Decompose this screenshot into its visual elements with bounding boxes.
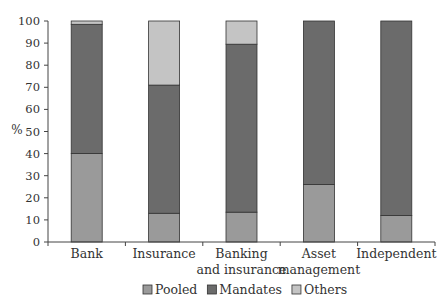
legend: PooledMandatesOthers: [143, 282, 347, 297]
bar-banking-and-insurance: [226, 21, 257, 242]
bar-segment-pooled: [149, 213, 180, 242]
y-axis: 0102030405060708090100%: [11, 14, 48, 249]
legend-swatch: [292, 285, 301, 294]
legend-swatch: [207, 285, 216, 294]
y-tick-label: 60: [25, 102, 40, 116]
bar-segment-pooled: [381, 215, 412, 242]
x-axis: BankInsuranceBankingand insuranceAssetma…: [48, 242, 436, 277]
y-tick-label: 40: [25, 147, 40, 161]
bar-bank: [71, 21, 102, 242]
x-tick-label: Independent: [356, 246, 436, 261]
legend-item-pooled: Pooled: [143, 282, 197, 297]
y-tick-label: 0: [33, 235, 40, 249]
bar-segment-pooled: [71, 154, 102, 242]
bar-segment-pooled: [226, 212, 257, 242]
y-tick-label: 30: [25, 169, 40, 183]
y-tick-label: 70: [25, 80, 40, 94]
bar-segment-others: [149, 21, 180, 85]
y-tick-label: 80: [25, 58, 40, 72]
y-tick-label: 10: [25, 213, 40, 227]
y-axis-label: %: [11, 123, 22, 137]
bar-segment-pooled: [303, 185, 334, 242]
legend-label: Others: [304, 282, 347, 297]
y-tick-label: 50: [25, 125, 40, 139]
bar-independent: [381, 21, 412, 242]
legend-item-others: Others: [292, 282, 347, 297]
x-tick-label: management: [278, 262, 361, 277]
y-tick-label: 90: [25, 36, 40, 50]
stacked-bar-chart: 0102030405060708090100% BankInsuranceBan…: [0, 0, 445, 308]
y-tick-label: 100: [18, 14, 40, 28]
bar-segment-mandates: [149, 85, 180, 213]
x-tick-label: Bank: [71, 246, 104, 261]
legend-item-mandates: Mandates: [207, 282, 282, 297]
bar-asset-management: [303, 21, 334, 242]
legend-label: Mandates: [219, 282, 282, 297]
bar-segment-mandates: [303, 21, 334, 185]
x-tick-label: Banking: [215, 246, 267, 261]
x-tick-label: and insurance: [197, 262, 287, 277]
y-tick-label: 20: [25, 191, 40, 205]
bar-segment-mandates: [71, 24, 102, 153]
bar-insurance: [149, 21, 180, 242]
x-tick-label: Insurance: [132, 246, 195, 261]
bars: [71, 21, 412, 242]
bar-segment-others: [71, 21, 102, 24]
legend-swatch: [143, 285, 152, 294]
bar-segment-others: [226, 21, 257, 44]
legend-label: Pooled: [155, 282, 197, 297]
bar-segment-mandates: [381, 21, 412, 215]
x-tick-label: Asset: [301, 246, 336, 261]
bar-segment-mandates: [226, 44, 257, 212]
